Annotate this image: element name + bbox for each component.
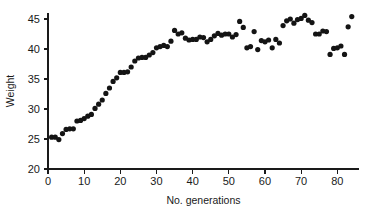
x-tick-label: 0 xyxy=(45,175,51,187)
data-point xyxy=(165,44,170,49)
data-point xyxy=(179,30,184,35)
x-tick-label: 80 xyxy=(331,175,343,187)
y-tick-label: 25 xyxy=(28,133,40,145)
data-point xyxy=(60,131,65,136)
data-point xyxy=(324,29,329,34)
chart-canvas: 20253035404501020304050607080No. generat… xyxy=(0,0,366,219)
y-tick-label: 35 xyxy=(28,73,40,85)
data-point xyxy=(346,24,351,29)
data-point xyxy=(255,47,260,52)
x-tick-label: 50 xyxy=(223,175,235,187)
data-point xyxy=(129,64,134,69)
data-point xyxy=(71,126,76,131)
data-point xyxy=(89,112,94,117)
data-point xyxy=(125,69,130,74)
data-point xyxy=(100,97,105,102)
x-tick-label: 60 xyxy=(259,175,271,187)
data-point xyxy=(201,35,206,40)
data-point-group xyxy=(49,13,354,142)
y-tick-label: 40 xyxy=(28,43,40,55)
data-point xyxy=(103,91,108,96)
data-point xyxy=(107,85,112,90)
x-tick-label: 40 xyxy=(187,175,199,187)
data-point xyxy=(241,25,246,30)
data-point xyxy=(248,44,253,49)
y-tick-label: 30 xyxy=(28,103,40,115)
data-point xyxy=(252,29,257,34)
data-point xyxy=(114,75,119,80)
data-point xyxy=(150,50,155,55)
x-tick-label: 70 xyxy=(295,175,307,187)
data-point xyxy=(349,14,354,19)
data-point xyxy=(342,52,347,57)
y-axis-title: Weight xyxy=(4,75,16,108)
data-point xyxy=(168,39,173,44)
y-tick-label: 45 xyxy=(28,13,40,25)
data-point xyxy=(302,13,307,18)
data-point xyxy=(327,52,332,57)
data-point xyxy=(288,16,293,21)
scatter-plot-figure: 20253035404501020304050607080No. generat… xyxy=(0,0,366,219)
data-point xyxy=(237,19,242,24)
x-tick-label: 10 xyxy=(78,175,90,187)
data-point xyxy=(96,102,101,107)
x-tick-label: 30 xyxy=(150,175,162,187)
data-point xyxy=(92,106,97,111)
x-axis-title: No. generations xyxy=(166,194,240,206)
data-point xyxy=(266,37,271,42)
x-tick-label: 20 xyxy=(114,175,126,187)
data-point xyxy=(233,32,238,37)
data-point xyxy=(309,20,314,25)
data-point xyxy=(277,40,282,45)
data-point xyxy=(56,137,61,142)
y-tick-label: 20 xyxy=(28,163,40,175)
data-point xyxy=(280,23,285,28)
data-point xyxy=(270,45,275,50)
data-point xyxy=(338,43,343,48)
